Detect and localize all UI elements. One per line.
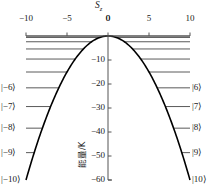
y-tick-label: −10	[83, 55, 105, 64]
ket-label-left: |−9⟩	[1, 148, 16, 157]
ket-label-left: |−8⟩	[1, 123, 16, 132]
x-tick-label: 10	[182, 14, 198, 23]
x-tick-label: −10	[18, 14, 34, 23]
ket-label-left: |−6⟩	[1, 83, 16, 92]
ket-label-right: |8⟩	[192, 123, 202, 132]
ket-label-right: |10⟩	[192, 175, 207, 184]
ket-label-right: |9⟩	[192, 148, 202, 157]
ket-label-left: |−10⟩	[1, 175, 21, 184]
y-tick-label: −60	[83, 175, 105, 184]
plot-canvas	[0, 0, 213, 191]
plot-title: Sz	[95, 1, 102, 12]
y-tick-label: −30	[83, 103, 105, 112]
ket-label-left: |−7⟩	[1, 102, 16, 111]
ket-label-right: |6⟩	[192, 83, 202, 92]
y-axis-label: 能量/K	[78, 142, 87, 168]
x-tick-label: −5	[59, 14, 75, 23]
y-tick-label: −20	[83, 79, 105, 88]
x-tick-label: 5	[141, 14, 157, 23]
energy-level-diagram: Sz −10−50510 −10−20−30−40−50−600 |−6⟩|6⟩…	[0, 0, 213, 191]
ket-label-right: |7⟩	[192, 102, 202, 111]
y-tick-label: −40	[83, 127, 105, 136]
y-tick-label-zero: 0	[100, 14, 116, 23]
